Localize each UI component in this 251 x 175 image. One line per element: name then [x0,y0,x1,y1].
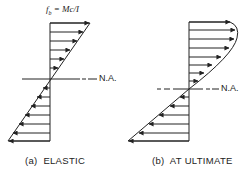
panel-b-ultimate [128,22,238,141]
tension-arrows-a [9,88,50,141]
neutral-axis-label-b: N.A. [221,83,239,93]
tension-arrows-b [129,97,189,141]
formula-label: fb = Mc/I [46,4,79,16]
compression-arrows-b [189,22,235,81]
stress-diagrams [0,0,251,175]
neutral-axis-label-a: N.A. [99,73,117,83]
stress-profile-line-a [8,23,90,141]
stress-profile-curve-b [189,22,238,89]
compression-arrows-a [50,23,89,68]
caption-a: (a) ELASTIC [25,155,85,166]
caption-b: (b) AT ULTIMATE [152,155,233,166]
panel-a-elastic [8,23,97,141]
